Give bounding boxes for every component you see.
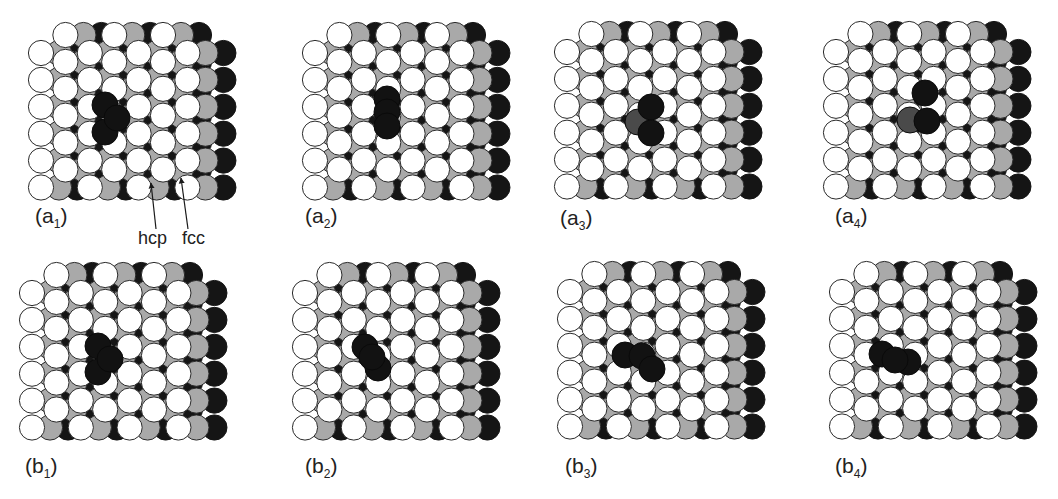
surface-atom — [19, 307, 44, 332]
surface-atom — [945, 102, 970, 127]
surface-atom — [823, 66, 848, 91]
surface-atom — [579, 75, 604, 100]
surface-atom — [679, 342, 704, 367]
surface-atom — [44, 343, 69, 368]
surface-atom — [701, 93, 726, 118]
surface-atom — [317, 289, 342, 314]
surface-atom — [854, 315, 879, 340]
surface-atom — [854, 261, 879, 286]
surface-atom — [341, 388, 366, 413]
surface-atom — [449, 94, 474, 119]
surface-atom — [603, 39, 628, 64]
surface-atom — [631, 261, 656, 286]
surface-atom — [579, 129, 604, 154]
surface-atom — [848, 75, 873, 100]
surface-atom — [424, 22, 449, 47]
panels-layer — [19, 21, 1037, 440]
surface-atom — [28, 67, 53, 92]
surface-atom — [351, 94, 376, 119]
surface-atom — [19, 361, 44, 386]
adsorbate-atom — [638, 120, 664, 146]
surface-atom — [77, 40, 102, 65]
surface-atom — [848, 21, 873, 46]
surface-atom — [126, 40, 151, 65]
surface-atom — [655, 306, 680, 331]
surface-atom — [582, 288, 607, 313]
surface-atom — [166, 388, 191, 413]
surface-atom — [945, 129, 970, 154]
surface-atom — [921, 147, 946, 172]
surface-atom — [655, 414, 680, 439]
panel-a2 — [302, 22, 510, 200]
surface-atom — [19, 334, 44, 359]
surface-atom — [341, 280, 366, 305]
adsorption-configurations-figure — [0, 0, 1058, 499]
surface-atom — [400, 121, 425, 146]
surface-atom — [439, 415, 464, 440]
adsorbate-atom — [638, 94, 664, 120]
surface-atom — [53, 76, 78, 101]
surface-atom — [872, 174, 897, 199]
surface-atom — [68, 307, 93, 332]
surface-atom — [424, 76, 449, 101]
surface-atom — [951, 396, 976, 421]
surface-atom — [927, 333, 952, 358]
surface-atom — [175, 148, 200, 173]
panel-label-close: ) — [50, 454, 57, 477]
surface-atom — [652, 39, 677, 64]
panel-b4 — [829, 261, 1037, 439]
surface-atom — [652, 66, 677, 91]
surface-atom — [28, 148, 53, 173]
surface-atom — [829, 279, 854, 304]
surface-atom — [117, 415, 142, 440]
surface-atom — [903, 315, 928, 340]
surface-atom — [557, 333, 582, 358]
surface-atom — [68, 388, 93, 413]
surface-atom — [582, 396, 607, 421]
surface-atom — [848, 129, 873, 154]
surface-atom — [854, 396, 879, 421]
fcc-site-label: fcc — [182, 229, 205, 247]
panel-label-letter: (a — [560, 206, 579, 229]
surface-atom — [704, 306, 729, 331]
panel-label-close: ) — [860, 204, 867, 227]
surface-atom — [679, 288, 704, 313]
surface-atom — [351, 40, 376, 65]
surface-atom — [579, 21, 604, 46]
surface-atom — [976, 333, 1001, 358]
surface-atom — [341, 415, 366, 440]
surface-atom — [945, 48, 970, 73]
surface-atom — [854, 369, 879, 394]
surface-atom — [141, 370, 166, 395]
surface-atom — [53, 157, 78, 182]
surface-atom — [166, 415, 191, 440]
surface-atom — [704, 387, 729, 412]
surface-atom — [927, 360, 952, 385]
surface-atom — [606, 414, 631, 439]
surface-atom — [77, 175, 102, 200]
surface-atom — [414, 289, 439, 314]
surface-atom — [603, 66, 628, 91]
panel-b2 — [292, 262, 500, 440]
surface-atom — [424, 103, 449, 128]
surface-atom — [439, 307, 464, 332]
surface-atom — [878, 414, 903, 439]
surface-atom — [366, 397, 391, 422]
surface-atom — [93, 262, 118, 287]
surface-atom — [848, 102, 873, 127]
surface-atom — [414, 262, 439, 287]
surface-atom — [317, 262, 342, 287]
surface-atom — [400, 175, 425, 200]
surface-atom — [150, 157, 175, 182]
surface-atom — [175, 121, 200, 146]
surface-atom — [302, 94, 327, 119]
surface-atom — [351, 175, 376, 200]
surface-atom — [366, 262, 391, 287]
surface-atom — [631, 315, 656, 340]
panel-a3 — [554, 21, 762, 199]
panel-b3 — [557, 261, 765, 439]
surface-atom — [141, 343, 166, 368]
surface-atom — [327, 157, 352, 182]
surface-atom — [150, 130, 175, 155]
surface-atom — [93, 289, 118, 314]
